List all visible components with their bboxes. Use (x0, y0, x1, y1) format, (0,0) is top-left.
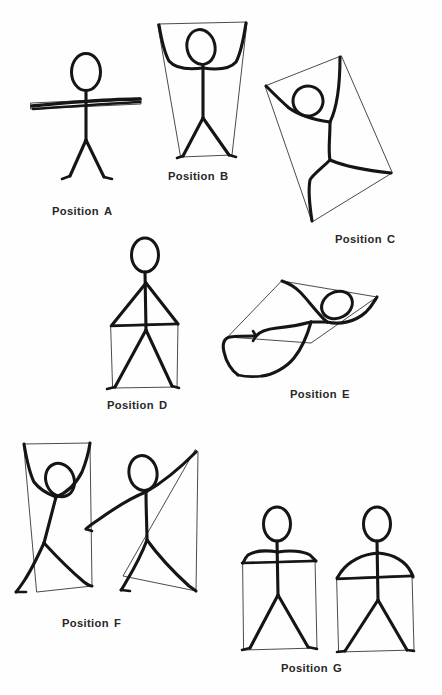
foot-f-right (121, 590, 130, 591)
leg-g-right-b (378, 600, 407, 650)
arm-f-left-a (24, 444, 56, 497)
leg-b-left (183, 118, 203, 156)
figure-position-f-right (86, 450, 198, 591)
foot-g-right-b (407, 650, 414, 651)
spine-g-left (277, 541, 278, 595)
figure-position-a (31, 54, 141, 180)
figure-position-b (158, 22, 247, 158)
guide-g-left-box (243, 560, 317, 650)
caption-position-e: PositionE (290, 388, 350, 400)
head-g-right (364, 507, 391, 541)
caption-letter-g: G (333, 662, 342, 674)
guide-e-quad (228, 281, 377, 343)
spine-g-right (377, 541, 378, 600)
caption-position-f: PositionF (62, 617, 121, 629)
head-b (184, 27, 219, 67)
leg-e-left (256, 322, 311, 336)
caption-word-g: Position (281, 662, 328, 674)
arm-f-right-down (86, 492, 146, 529)
leg-g-left-b (278, 595, 308, 647)
head-c (289, 82, 327, 120)
caption-word-c: Position (335, 233, 382, 245)
caption-position-d: PositionD (107, 399, 167, 411)
foot-a-right (104, 177, 112, 179)
foot-d-right (172, 386, 179, 388)
arm-c-right (330, 57, 340, 122)
arm-g-right-b (378, 553, 413, 577)
hipline-g-right (337, 576, 413, 579)
figure-position-f-left (16, 443, 92, 592)
head-g-left (264, 507, 291, 541)
foot-g-left-b (308, 647, 317, 649)
figure-position-d (107, 238, 179, 389)
caption-letter-c: C (387, 233, 395, 245)
figure-position-g-right (337, 507, 414, 652)
arm-g-right-a (337, 553, 378, 578)
caption-letter-a: A (104, 205, 112, 217)
caption-word-d: Position (107, 399, 154, 411)
caption-word-e: Position (290, 388, 337, 400)
spine-f-right (146, 492, 147, 540)
illustration-page: PositionA PositionB PositionC PositionD … (0, 0, 442, 695)
figure-position-c (265, 56, 392, 222)
foot-d-left (107, 387, 115, 389)
caption-word-b: Position (168, 170, 215, 182)
caption-position-b: PositionB (168, 170, 228, 182)
caption-letter-f: F (114, 617, 121, 629)
foot-b-left (177, 156, 183, 158)
arm-f-right-up (146, 452, 196, 492)
foot-b-right (229, 155, 236, 157)
caption-position-g: PositionG (281, 662, 342, 674)
leg-a-right (86, 140, 104, 177)
foot-a-left (62, 176, 70, 179)
arm-d-left (112, 283, 146, 325)
caption-letter-b: B (220, 170, 228, 182)
figure-position-e (223, 281, 377, 377)
leg-f-left-b (44, 543, 92, 586)
spine-c (329, 122, 330, 160)
caption-position-a: PositionA (52, 205, 112, 217)
figure-position-g-left (242, 507, 317, 650)
leg-d-right (146, 330, 172, 386)
leg-f-right-a (121, 540, 147, 590)
leg-c-left (309, 160, 330, 221)
head-d (132, 238, 159, 272)
leg-g-left-a (250, 595, 278, 648)
leg-f-right-b (147, 540, 196, 591)
leg-g-right-a (345, 600, 378, 651)
caption-letter-e: E (342, 388, 350, 400)
leg-f-left-a (16, 543, 44, 592)
leg-e-left-lower (223, 336, 256, 375)
arm-g-left-b (278, 551, 316, 561)
head-a (72, 54, 101, 91)
foot-g-right-a (337, 651, 345, 652)
leg-c-right (330, 160, 391, 173)
caption-word-f: Position (62, 617, 109, 629)
leg-b-right (203, 118, 229, 155)
spine-d (145, 272, 146, 330)
hipline-g-left (242, 561, 316, 563)
leg-a-left (70, 140, 86, 176)
foot-e (238, 375, 262, 377)
caption-word-a: Position (52, 205, 99, 217)
leg-d-left (115, 330, 146, 387)
arm-d-right (146, 283, 178, 324)
caption-letter-d: D (159, 399, 167, 411)
guide-f-left-quad (24, 443, 92, 592)
spine-f-left (44, 497, 56, 543)
stick-figure-canvas (0, 0, 442, 695)
caption-position-c: PositionC (335, 233, 395, 245)
